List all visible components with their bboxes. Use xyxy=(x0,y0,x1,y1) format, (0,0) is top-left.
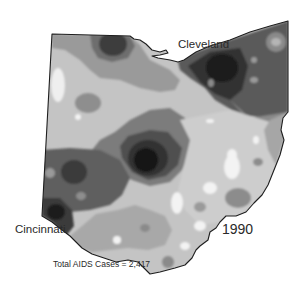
year-label: 1990 xyxy=(222,221,253,237)
total-cases-label: Total AIDS Cases = 2,417 xyxy=(53,259,150,269)
city-label-cincinnati: Cincinnati xyxy=(15,223,66,235)
map-graphic xyxy=(0,0,307,291)
city-label-cleveland: Cleveland xyxy=(178,38,229,50)
ohio-aids-map: Cleveland Cincinnati 1990 Total AIDS Cas… xyxy=(0,0,307,291)
